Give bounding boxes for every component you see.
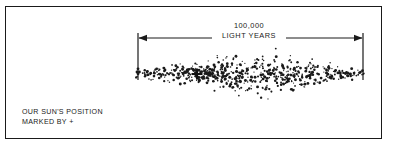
galaxy-star-dot <box>208 60 209 61</box>
galaxy-star-dot <box>194 62 196 64</box>
galaxy-star-dot <box>327 77 328 78</box>
galaxy-star-dot <box>144 73 146 75</box>
galaxy-star-dot <box>334 74 336 76</box>
galaxy-star-dot <box>284 79 286 81</box>
galaxy-star-dot <box>164 76 165 77</box>
galaxy-star-dot <box>217 55 218 56</box>
galaxy-star-dot <box>357 70 358 71</box>
galaxy-star-dot <box>152 79 153 80</box>
galaxy-star-dot <box>179 82 182 85</box>
galaxy-star-dot <box>323 71 324 72</box>
galaxy-star-dot <box>247 82 248 83</box>
galaxy-star-dot <box>326 80 328 82</box>
galaxy-star-dot <box>298 66 299 67</box>
galaxy-star-dot <box>231 71 232 72</box>
galaxy-star-dot <box>230 83 232 85</box>
galaxy-star-dot <box>146 70 149 73</box>
galaxy-star-dot <box>144 75 146 77</box>
galaxy-star-dot <box>256 62 258 64</box>
galaxy-star-dot <box>187 74 189 76</box>
galaxy-star-dot <box>354 72 355 73</box>
galaxy-star-dot <box>290 55 291 56</box>
galaxy-star-dot <box>280 77 281 78</box>
galaxy-star-dot <box>257 75 259 77</box>
galaxy-star-dot <box>280 81 282 83</box>
galaxy-star-dot <box>298 72 300 74</box>
galaxy-star-dot <box>273 76 275 78</box>
galaxy-star-dot <box>309 76 311 78</box>
galaxy-star-dot <box>268 88 269 89</box>
galaxy-star-dot <box>267 72 270 75</box>
galaxy-star-dot <box>171 69 172 70</box>
galaxy-star-dot <box>235 76 237 78</box>
galaxy-star-dot <box>270 91 272 93</box>
galaxy-star-dot <box>304 81 305 82</box>
galaxy-star-dot <box>272 69 275 72</box>
galaxy-star-dot <box>355 75 357 77</box>
galaxy-star-dot <box>212 69 215 72</box>
galaxy-star-dot <box>189 73 190 74</box>
galaxy-star-dot <box>299 67 302 70</box>
galaxy-star-dot <box>206 76 209 79</box>
galaxy-star-dot <box>246 69 249 72</box>
galaxy-star-dot <box>280 89 282 91</box>
galaxy-star-dot <box>216 70 219 73</box>
galaxy-star-dot <box>266 85 267 86</box>
galaxy-star-dot <box>241 77 242 78</box>
galaxy-star-dot <box>329 75 331 77</box>
galaxy-star-dot <box>207 80 209 82</box>
galaxy-star-dot <box>228 76 231 79</box>
galaxy-star-dot <box>220 68 221 69</box>
galaxy-star-dot <box>254 76 257 79</box>
galaxy-star-dot <box>292 72 294 74</box>
galaxy-star-dot <box>199 66 200 67</box>
galaxy-star-dot <box>294 85 296 87</box>
galaxy-star-dot <box>203 77 205 79</box>
galaxy-star-dot <box>338 78 339 79</box>
galaxy-star-dot <box>261 79 262 80</box>
galaxy-star-dot <box>332 78 334 80</box>
galaxy-star-dot <box>214 74 216 76</box>
galaxy-star-dot <box>235 55 238 58</box>
galaxy-star-dot <box>290 61 292 63</box>
galaxy-star-dot <box>311 58 313 60</box>
galaxy-star-dot <box>235 80 238 83</box>
galaxy-star-dot <box>234 90 236 92</box>
galaxy-star-dot <box>280 83 283 86</box>
galaxy-star-dot <box>357 74 359 76</box>
galaxy-star-dot <box>253 71 254 72</box>
galaxy-star-dot <box>318 81 321 84</box>
galaxy-star-dot <box>254 59 255 60</box>
galaxy-star-dot <box>247 80 248 81</box>
galaxy-star-dot <box>180 76 181 77</box>
galaxy-star-dot <box>249 79 252 82</box>
galaxy-star-dot <box>304 70 307 73</box>
galaxy-star-dot <box>351 79 353 81</box>
galaxy-star-dot <box>328 67 330 69</box>
galaxy-star-dot <box>344 77 345 78</box>
galaxy-star-dot <box>275 68 278 71</box>
galaxy-star-dot <box>275 48 277 50</box>
galaxy-star-dot <box>282 64 283 65</box>
galaxy-star-dot <box>339 71 340 72</box>
galaxy-star-dot <box>166 74 167 75</box>
galaxy-star-dot <box>262 58 264 60</box>
galaxy-star-dot <box>158 68 160 70</box>
galaxy-star-dot <box>226 56 228 58</box>
galaxy-star-dot <box>286 66 288 68</box>
galaxy-star-dot <box>291 80 292 81</box>
galaxy-star-dot <box>208 66 210 68</box>
galaxy-star-dot <box>317 82 318 83</box>
galaxy-star-dot <box>224 69 227 72</box>
galaxy-star-dot <box>183 75 185 77</box>
galaxy-star-dot <box>192 65 193 66</box>
galaxy-star-dot <box>307 66 309 68</box>
galaxy-star-dot <box>219 86 221 88</box>
galaxy-star-dot <box>299 78 301 80</box>
galaxy-star-dot <box>254 63 255 64</box>
figure-root: 100,000 LIGHT YEARS OUR SUN'S POSITION M… <box>0 0 393 146</box>
galaxy-star-dot <box>282 83 285 86</box>
galaxy-star-dot <box>276 81 277 82</box>
galaxy-star-dot <box>262 87 264 89</box>
galaxy-star-dot <box>263 60 265 62</box>
